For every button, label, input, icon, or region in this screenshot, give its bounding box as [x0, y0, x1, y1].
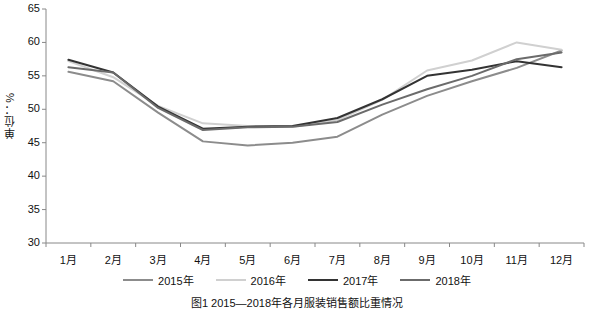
x-tick-label: 3月 — [138, 251, 178, 267]
x-tick-label: 1月 — [48, 251, 88, 267]
y-tick-label: 65 — [16, 2, 40, 14]
x-tick-label: 10月 — [452, 251, 492, 267]
legend-item[interactable]: 2018年 — [400, 272, 470, 288]
x-tick-label: 7月 — [317, 251, 357, 267]
x-tick-label: 4月 — [183, 251, 223, 267]
y-tick-label: 50 — [16, 102, 40, 114]
legend-item[interactable]: 2015年 — [123, 272, 193, 288]
series-line-3 — [68, 52, 561, 130]
x-tick-label: 9月 — [407, 251, 447, 267]
chart-series-lines — [68, 42, 561, 145]
chart-legend: 2015年2016年2017年2018年 — [0, 272, 594, 288]
chart-axes — [42, 9, 584, 247]
x-tick-label: 2月 — [93, 251, 133, 267]
y-tick-label: 30 — [16, 236, 40, 248]
figure-caption: 图1 2015—2018年各月服装销售额比重情况 — [0, 294, 594, 310]
legend-label: 2015年 — [158, 272, 193, 288]
y-tick-label: 35 — [16, 203, 40, 215]
legend-swatch-icon — [308, 279, 338, 281]
x-tick-label: 11月 — [497, 251, 537, 267]
x-tick-label: 5月 — [228, 251, 268, 267]
y-tick-label: 40 — [16, 169, 40, 181]
series-line-0 — [68, 50, 561, 145]
legend-item[interactable]: 2017年 — [308, 272, 378, 288]
series-line-1 — [68, 42, 561, 126]
y-tick-label: 45 — [16, 136, 40, 148]
legend-swatch-icon — [400, 279, 430, 281]
legend-item[interactable]: 2016年 — [216, 272, 286, 288]
y-tick-label: 55 — [16, 69, 40, 81]
x-tick-label: 8月 — [362, 251, 402, 267]
legend-label: 2017年 — [343, 272, 378, 288]
x-tick-label: 12月 — [542, 251, 582, 267]
legend-label: 2018年 — [435, 272, 470, 288]
y-tick-label: 60 — [16, 35, 40, 47]
x-tick-label: 6月 — [273, 251, 313, 267]
legend-swatch-icon — [123, 279, 153, 281]
legend-label: 2016年 — [251, 272, 286, 288]
legend-swatch-icon — [216, 279, 246, 281]
